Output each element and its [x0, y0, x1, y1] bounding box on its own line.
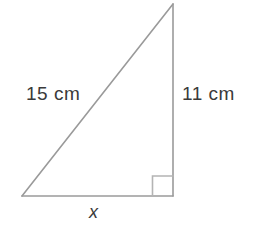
geometry-figure: 15 cm 11 cm x: [0, 0, 257, 232]
right-angle-marker-icon: [153, 176, 174, 196]
hypotenuse-label: 15 cm: [26, 84, 80, 103]
triangle-drawing: [0, 0, 257, 232]
vertical-leg-label: 11 cm: [182, 84, 235, 103]
base-label: x: [89, 203, 98, 221]
